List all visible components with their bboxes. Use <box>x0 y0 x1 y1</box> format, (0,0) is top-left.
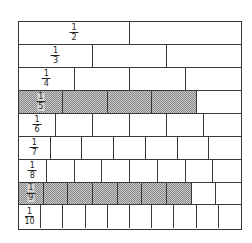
shaded-fraction-cell: 19 <box>19 183 44 205</box>
fraction-cell <box>108 205 130 228</box>
fraction-label: 110 <box>24 208 36 226</box>
shaded-fraction-cell: 15 <box>19 91 63 113</box>
shaded-fraction-cell <box>68 183 93 205</box>
fraction-row-8: 18 <box>19 160 241 183</box>
fraction-cell <box>178 137 210 159</box>
fraction-cell <box>146 137 178 159</box>
fraction-cell <box>114 137 146 159</box>
fraction-cell <box>204 114 241 136</box>
fraction-label: 15 <box>36 93 45 111</box>
fraction-cell <box>152 205 174 228</box>
fraction-label: 14 <box>42 70 51 88</box>
fraction-cell <box>174 205 196 228</box>
fraction-wall: 1213141516171819110 <box>18 21 242 230</box>
fraction-numerator: 1 <box>31 139 38 147</box>
fraction-cell <box>186 160 214 182</box>
fraction-cell <box>130 114 167 136</box>
fraction-denominator: 2 <box>70 34 77 42</box>
fraction-cell: 18 <box>19 160 47 182</box>
fraction-denominator: 4 <box>43 80 50 88</box>
fraction-row-10: 110 <box>19 205 241 228</box>
fraction-label: 13 <box>51 47 60 65</box>
shaded-fraction-cell <box>93 183 118 205</box>
fraction-cell <box>41 205 63 228</box>
fraction-cell <box>93 45 167 67</box>
fraction-cell <box>197 91 241 113</box>
shaded-fraction-cell <box>152 91 196 113</box>
fraction-denominator: 10 <box>24 218 36 226</box>
fraction-cell <box>167 114 204 136</box>
fraction-cell <box>209 137 241 159</box>
fraction-cell <box>82 137 114 159</box>
fraction-cell <box>219 205 241 228</box>
fraction-cell: 13 <box>19 45 93 67</box>
shaded-fraction-cell <box>44 183 69 205</box>
fraction-cell: 110 <box>19 205 41 228</box>
fraction-row-2: 12 <box>19 22 241 45</box>
fraction-cell <box>47 160 75 182</box>
fraction-cell <box>130 22 241 44</box>
fraction-cell: 16 <box>19 114 56 136</box>
fraction-denominator: 3 <box>52 57 59 65</box>
fraction-row-7: 17 <box>19 137 241 160</box>
fraction-cell: 14 <box>19 68 75 90</box>
fraction-numerator: 1 <box>52 47 59 55</box>
fraction-numerator: 1 <box>37 93 44 101</box>
fraction-cell <box>192 183 217 205</box>
fraction-cell <box>216 183 241 205</box>
fraction-cell <box>86 205 108 228</box>
fraction-cell <box>102 160 130 182</box>
fraction-cell <box>213 160 241 182</box>
fraction-label: 18 <box>28 162 37 180</box>
fraction-cell <box>130 205 152 228</box>
fraction-label: 16 <box>32 116 41 134</box>
shaded-fraction-cell <box>63 91 107 113</box>
fraction-label: 17 <box>30 139 39 157</box>
fraction-denominator: 5 <box>37 103 44 111</box>
fraction-label: 19 <box>26 184 35 202</box>
fraction-cell <box>63 205 85 228</box>
fraction-row-6: 16 <box>19 114 241 137</box>
fraction-row-4: 14 <box>19 68 241 91</box>
fraction-numerator: 1 <box>33 116 40 124</box>
fraction-cell <box>167 45 241 67</box>
fraction-numerator: 1 <box>70 24 77 32</box>
fraction-denominator: 6 <box>33 126 40 134</box>
fraction-row-9: 19 <box>19 183 241 206</box>
fraction-cell <box>130 68 186 90</box>
fraction-cell: 17 <box>19 137 51 159</box>
shaded-fraction-cell <box>167 183 192 205</box>
fraction-denominator: 7 <box>31 149 38 157</box>
fraction-cell <box>158 160 186 182</box>
fraction-cell <box>130 160 158 182</box>
fraction-denominator: 9 <box>27 194 34 202</box>
fraction-numerator: 1 <box>27 184 34 192</box>
fraction-cell <box>93 114 130 136</box>
fraction-cell <box>51 137 83 159</box>
fraction-label: 12 <box>70 24 79 42</box>
fraction-cell <box>75 160 103 182</box>
fraction-numerator: 1 <box>26 208 33 216</box>
fraction-cell <box>197 205 219 228</box>
shaded-fraction-cell <box>108 91 152 113</box>
fraction-numerator: 1 <box>43 70 50 78</box>
fraction-cell: 12 <box>19 22 130 44</box>
fraction-row-3: 13 <box>19 45 241 68</box>
fraction-row-5: 15 <box>19 91 241 114</box>
fraction-denominator: 8 <box>29 172 36 180</box>
fraction-cell <box>56 114 93 136</box>
shaded-fraction-cell <box>142 183 167 205</box>
fraction-cell <box>186 68 242 90</box>
fraction-numerator: 1 <box>29 162 36 170</box>
fraction-cell <box>75 68 131 90</box>
shaded-fraction-cell <box>118 183 143 205</box>
